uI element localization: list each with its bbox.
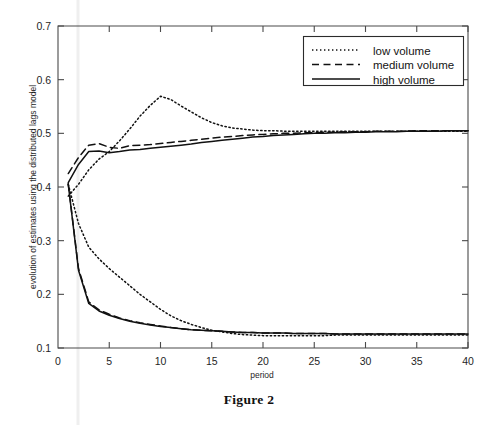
x-tick-label: 25 — [308, 355, 320, 367]
legend-label-high-volume: high volume — [373, 74, 435, 86]
y-tick-label: 0.2 — [36, 288, 51, 300]
series-lower-medium-volume — [68, 184, 468, 334]
series-upper-high-volume — [68, 131, 468, 183]
y-tick-label: 0.4 — [36, 181, 51, 193]
x-axis-tick-labels: 5101520253035400 — [55, 355, 474, 367]
legend-label-low-volume: low volume — [373, 45, 431, 57]
x-tick-label: 35 — [411, 355, 423, 367]
y-tick-label: 0.6 — [36, 74, 51, 86]
figure-container: 5101520253035400 0.10.20.30.40.50.60.7 p… — [0, 0, 498, 425]
chart-legend: low volumemedium volumehigh volume — [304, 37, 464, 86]
y-tick-label: 0.7 — [36, 20, 51, 32]
series-upper-medium-volume — [68, 131, 468, 174]
x-tick-label: 15 — [206, 355, 218, 367]
x-tick-label: 40 — [462, 355, 474, 367]
x-axis-label: period — [250, 370, 274, 380]
y-axis-tick-labels: 0.10.20.30.40.50.60.7 — [36, 20, 51, 354]
legend-label-medium-volume: medium volume — [373, 59, 454, 71]
x-tick-label-origin: 0 — [55, 355, 61, 367]
data-series-group — [68, 96, 468, 335]
y-tick-label: 0.1 — [36, 342, 51, 354]
x-tick-label: 10 — [155, 355, 167, 367]
figure-caption: Figure 2 — [0, 392, 498, 408]
y-axis-label: evolution of estimates using the distrib… — [28, 85, 38, 289]
x-tick-label: 20 — [257, 355, 269, 367]
x-tick-label: 5 — [106, 355, 112, 367]
x-tick-label: 30 — [360, 355, 372, 367]
series-lower-low-volume — [68, 184, 468, 335]
series-lower-high-volume — [68, 184, 468, 334]
y-tick-label: 0.3 — [36, 235, 51, 247]
y-tick-label: 0.5 — [36, 127, 51, 139]
line-chart: 5101520253035400 0.10.20.30.40.50.60.7 p… — [0, 0, 498, 425]
